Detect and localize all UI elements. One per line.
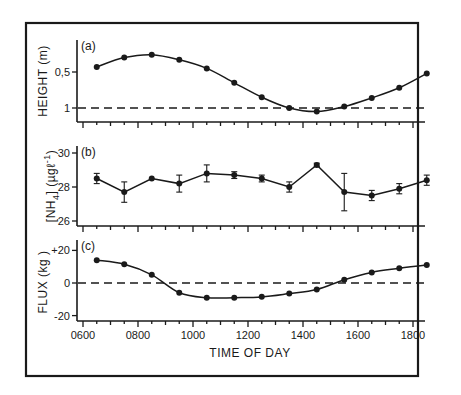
data-point [149,272,155,278]
data-point [231,172,237,178]
y-tick-label: +20 [51,244,70,256]
data-point [424,177,430,183]
data-point [94,176,100,182]
data-point [286,105,292,111]
data-point [204,170,210,176]
x-tick-label: 0800 [126,329,150,341]
data-point [259,176,265,182]
figure: 0,51(a)HEIGHT (m) 302826(b)[NH4] (µgℓ-1)… [0,0,461,395]
data-point [259,94,265,100]
data-point [341,189,347,195]
panel-label: (b) [81,145,96,159]
data-point [231,295,237,301]
data-point [94,257,100,263]
data-point [424,262,430,268]
x-tick-label: 1000 [181,329,205,341]
x-tick-label: 1600 [346,329,370,341]
data-point [341,277,347,283]
data-point [94,64,100,70]
data-point [341,104,347,110]
y-axis-title: FLUX (kg ) [36,250,50,313]
data-point [369,95,375,101]
panel-label: (c) [81,239,95,253]
y-axis-title: HEIGHT (m) [36,45,50,116]
x-tick-label: 1800 [401,329,425,341]
y-tick-label: 1 [64,102,70,114]
y-tick-label: 0,5 [55,66,70,78]
data-point [314,162,320,168]
data-point [121,55,127,61]
data-point [424,70,430,76]
data-point [121,261,127,267]
data-point [396,186,402,192]
panel-a: 0,51(a)HEIGHT (m) [36,39,430,128]
panel-label: (a) [81,39,96,53]
x-tick-label: 0600 [71,329,95,341]
y-tick-label: 26 [58,215,70,227]
y-tick-label: 28 [58,181,70,193]
data-point [176,57,182,63]
y-tick-label: -20 [54,310,70,322]
data-point [176,181,182,187]
data-point [204,295,210,301]
data-point [314,287,320,293]
data-point [286,184,292,190]
data-point [369,193,375,199]
data-point [176,290,182,296]
x-tick-label: 1400 [291,329,315,341]
data-point [259,294,265,300]
x-axis-title: TIME OF DAY [209,346,290,360]
data-point [204,65,210,71]
panel-b: 302826(b)[NH4] (µgℓ-1) [42,145,430,232]
data-point [314,109,320,115]
series-line [97,55,427,112]
data-point [369,269,375,275]
series-line [97,260,427,298]
data-point [149,176,155,182]
panel-c: +200-20(c)FLUX (kg )06000800100012001400… [36,239,430,341]
data-point [396,265,402,271]
data-point [231,80,237,86]
y-tick-label: 30 [58,147,70,159]
data-point [286,291,292,297]
data-point [396,85,402,91]
x-tick-label: 1200 [236,329,260,341]
y-tick-label: 0 [64,277,70,289]
data-point [121,189,127,195]
data-point [149,52,155,58]
